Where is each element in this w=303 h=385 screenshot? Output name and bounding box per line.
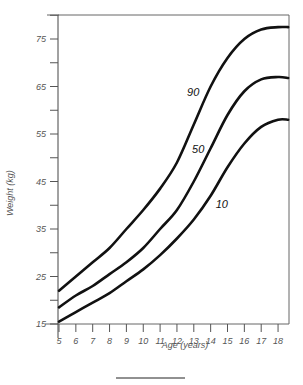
x-tick-label: 9 bbox=[124, 336, 129, 346]
curve-label-p90: 90 bbox=[187, 86, 200, 98]
curve-label-p50: 50 bbox=[192, 143, 205, 155]
y-axis: 15253545556575 bbox=[35, 15, 58, 329]
curve-p90 bbox=[59, 27, 288, 291]
x-tick-label: 17 bbox=[256, 336, 267, 346]
percentile-curves bbox=[59, 27, 288, 322]
x-tick-label: 16 bbox=[239, 336, 249, 346]
x-tick-label: 15 bbox=[222, 336, 233, 346]
y-tick-label: 25 bbox=[35, 272, 47, 282]
y-tick-label: 15 bbox=[36, 319, 47, 329]
x-axis-title: Age (years) bbox=[161, 340, 209, 350]
x-tick-label: 7 bbox=[90, 336, 96, 346]
growth-chart: 15253545556575 56789101112131415161718 9… bbox=[0, 0, 303, 385]
y-tick-label: 75 bbox=[36, 34, 47, 44]
curve-p10 bbox=[59, 119, 288, 321]
curve-label-p10: 10 bbox=[216, 198, 229, 210]
x-tick-label: 10 bbox=[138, 336, 148, 346]
x-tick-label: 5 bbox=[56, 336, 62, 346]
x-tick-label: 18 bbox=[273, 336, 283, 346]
curve-p50 bbox=[59, 77, 288, 307]
x-tick-label: 6 bbox=[73, 336, 78, 346]
y-tick-label: 35 bbox=[36, 224, 47, 234]
y-tick-label: 55 bbox=[36, 129, 47, 139]
y-tick-label: 65 bbox=[36, 82, 47, 92]
y-axis-title: Weight (kg) bbox=[5, 170, 15, 216]
x-tick-label: 8 bbox=[107, 336, 112, 346]
y-tick-label: 45 bbox=[36, 177, 47, 187]
curve-labels: 905010 bbox=[187, 86, 229, 210]
